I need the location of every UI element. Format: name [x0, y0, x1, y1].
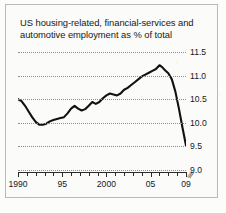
chart-title-line-2: automotive employment as % of total	[20, 29, 196, 41]
x-axis-tick	[142, 172, 143, 176]
x-axis-tick	[80, 172, 81, 176]
x-axis-tick	[115, 172, 116, 176]
gridline	[18, 52, 186, 53]
x-axis-tick	[159, 172, 160, 176]
scan-artifact	[3, 118, 4, 119]
x-axis-tick	[151, 172, 152, 177]
x-axis-tick	[27, 172, 28, 176]
chart-title-line-1: US housing-related, financial-services a…	[20, 17, 196, 29]
x-axis-tick	[177, 172, 178, 176]
x-axis-tick-label: 1990	[8, 179, 27, 189]
scan-artifact	[218, 94, 220, 95]
gridline	[18, 123, 186, 124]
x-axis-tick	[36, 172, 37, 176]
gridline	[18, 99, 186, 100]
x-axis-tick	[89, 172, 90, 176]
chart-title: US housing-related, financial-services a…	[20, 17, 196, 42]
scan-artifact	[191, 207, 192, 208]
y-axis-tick-label: 11.5	[190, 47, 206, 57]
gridline	[18, 76, 186, 77]
plot-area	[18, 52, 186, 170]
y-axis-tick-label: 10.0	[190, 118, 207, 128]
chart-figure: US housing-related, financial-services a…	[0, 0, 226, 213]
x-axis-tick	[62, 172, 63, 177]
x-axis-tick	[71, 172, 72, 176]
x-axis-tick	[45, 172, 46, 176]
x-axis-line	[18, 172, 186, 173]
x-axis-tick-label: 05	[146, 179, 156, 189]
x-axis-tick	[133, 172, 134, 176]
y-axis-tick-label: 9.5	[190, 141, 202, 151]
x-axis-tick	[124, 172, 125, 176]
x-axis-tick	[106, 172, 107, 177]
x-axis-tick-label: 2000	[97, 179, 116, 189]
data-line-series	[18, 52, 186, 170]
x-axis-tick-label: 95	[57, 179, 67, 189]
x-axis-tick	[98, 172, 99, 176]
scan-artifact	[27, 199, 28, 200]
y-axis-tick-label: 10.5	[190, 94, 207, 104]
gridline	[18, 146, 186, 147]
x-axis-tick	[53, 172, 54, 176]
y-axis-tick-label: 11.0	[190, 71, 206, 81]
gridline	[18, 170, 186, 171]
x-axis-tick	[18, 172, 19, 177]
x-axis-tick	[168, 172, 169, 176]
